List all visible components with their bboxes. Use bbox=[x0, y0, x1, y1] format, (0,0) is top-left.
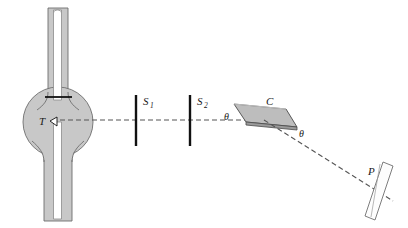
label-plate: P bbox=[367, 165, 375, 177]
xray-spectrometer-diagram: T S 1 S 2 C θ θ bbox=[0, 0, 408, 228]
crystal-group: C bbox=[234, 95, 297, 130]
label-slit2: S bbox=[197, 95, 203, 107]
label-theta-incident: θ bbox=[224, 111, 229, 122]
label-target: T bbox=[39, 115, 46, 127]
tube-inner-channel-upper bbox=[54, 10, 62, 100]
label-slit1: S bbox=[143, 95, 149, 107]
diagram-canvas: T S 1 S 2 C θ θ bbox=[0, 0, 408, 228]
photographic-plate-group: P bbox=[365, 162, 393, 220]
label-crystal: C bbox=[266, 95, 274, 107]
label-slit2-subscript: 2 bbox=[204, 101, 208, 110]
tube-inner-channel-cap bbox=[54, 10, 62, 13]
label-theta-reflected: θ bbox=[299, 128, 304, 139]
tube-inner-channel-lower bbox=[54, 122, 62, 219]
label-slit1-subscript: 1 bbox=[150, 101, 154, 110]
xray-tube-group: T bbox=[23, 8, 93, 221]
